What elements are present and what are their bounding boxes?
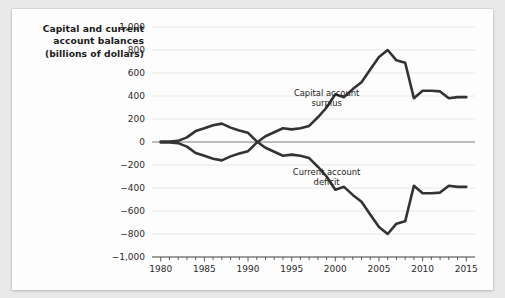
y-tick-label: 1,000 <box>119 22 145 32</box>
y-tick-label: −800 <box>120 229 145 239</box>
x-axis <box>152 257 475 262</box>
y-tick-label: −600 <box>120 206 145 216</box>
x-tick-label: 2015 <box>455 264 478 274</box>
y-tick-label: 800 <box>128 45 145 55</box>
screenshot-page: Capital and current account balances (bi… <box>0 0 505 298</box>
y-tick-label: 200 <box>128 114 145 124</box>
y-tick-label: 400 <box>128 91 145 101</box>
line-chart: 1,0008006004002000−200−400−600−800−1,000… <box>12 9 493 290</box>
x-tick-label: 1980 <box>149 264 172 274</box>
y-tick-label: −200 <box>120 160 145 170</box>
x-tick-label: 2000 <box>324 264 347 274</box>
series-annotation: Current accountdeficit <box>293 167 361 187</box>
y-tick-label: −1,000 <box>112 252 146 262</box>
series-annotation: Capital accountsurplus <box>294 88 360 108</box>
x-tick-label: 1995 <box>280 264 303 274</box>
series-annotations: Capital accountsurplusCurrent accountdef… <box>293 88 361 187</box>
y-axis-tick-labels: 1,0008006004002000−200−400−600−800−1,000 <box>112 22 146 262</box>
x-tick-label: 2005 <box>368 264 391 274</box>
y-tick-label: 0 <box>139 137 145 147</box>
x-tick-label: 2010 <box>411 264 434 274</box>
x-tick-label: 1990 <box>237 264 260 274</box>
x-axis-tick-labels: 19801985199019952000200520102015 <box>149 264 477 274</box>
x-tick-label: 1985 <box>193 264 216 274</box>
y-tick-label: −400 <box>120 183 145 193</box>
y-tick-label: 600 <box>128 68 145 78</box>
figure-card: Capital and current account balances (bi… <box>12 9 493 290</box>
